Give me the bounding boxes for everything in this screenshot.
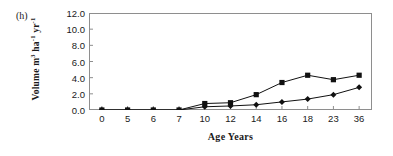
y-axis-tick-labels: 0.02.04.06.08.010.012.0: [52, 8, 85, 116]
data-point-diamond: [279, 99, 285, 105]
y-axis-tick-label: 0.0: [52, 105, 85, 116]
y-axis-tick-label: 12.0: [52, 8, 85, 19]
data-point-square: [305, 73, 310, 78]
figure-panel: (h) Volume m3 ha-1 yr-1 0.02.04.06.08.01…: [0, 0, 393, 156]
data-point-square: [279, 80, 284, 85]
x-axis-tick-label: 0: [89, 113, 115, 124]
x-axis-tick-label: 23: [320, 113, 346, 124]
x-axis-tick-label: 36: [346, 113, 372, 124]
x-axis-tick-label: 10: [192, 113, 218, 124]
y-axis-title-mid: ha: [31, 41, 41, 54]
data-point-diamond: [330, 92, 336, 98]
data-point-square: [357, 73, 362, 78]
y-axis-title-sup-hectare: -1: [29, 35, 36, 41]
x-axis-tick-labels: 056710121416182336: [89, 113, 372, 129]
x-axis-tick-label: 6: [140, 113, 166, 124]
y-axis-title-mid2: yr: [31, 23, 41, 35]
y-axis-tick-label: 4.0: [52, 72, 85, 83]
y-axis-title-prefix: Volume m: [31, 58, 41, 101]
y-axis-tick-label: 10.0: [52, 24, 85, 35]
data-point-diamond: [356, 84, 362, 90]
data-point-square: [331, 77, 336, 82]
plot-canvas: [89, 13, 372, 110]
x-axis-tick-label: 14: [243, 113, 269, 124]
y-axis-tick-label: 8.0: [52, 40, 85, 51]
x-axis-tick-label: 16: [269, 113, 295, 124]
panel-label: (h): [16, 10, 28, 21]
data-point-diamond: [305, 96, 311, 102]
y-axis-tick-label: 6.0: [52, 56, 85, 67]
axis-ticks-layer: [89, 13, 359, 110]
x-axis-tick-label: 18: [295, 113, 321, 124]
data-point-diamond: [253, 102, 259, 108]
data-series-layer: [99, 73, 362, 110]
x-axis-title: Age Years: [89, 131, 372, 142]
y-axis-title: Volume m3 ha-1 yr-1: [31, 18, 41, 101]
data-point-square: [254, 92, 259, 97]
y-axis-title-sup-volume: 3: [29, 54, 36, 57]
y-axis-tick-label: 2.0: [52, 88, 85, 99]
x-axis-tick-label: 5: [115, 113, 141, 124]
x-axis-tick-label: 7: [166, 113, 192, 124]
y-axis-title-sup-year: -1: [29, 18, 36, 24]
x-axis-tick-label: 12: [218, 113, 244, 124]
